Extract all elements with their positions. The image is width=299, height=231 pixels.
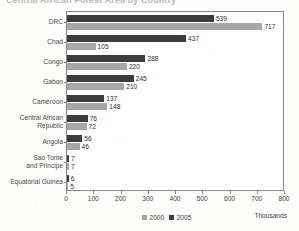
bar-2000 (67, 83, 124, 90)
bar-value-label: 245 (134, 75, 147, 82)
bar-2005 (67, 15, 214, 22)
y-axis-label: Central African Republic (0, 112, 63, 132)
chart-title: Central African Forest Area by Country (6, 0, 246, 6)
bar-value-label: 137 (104, 95, 117, 102)
bar-value-label: 7 (69, 163, 75, 170)
y-axis-label: Gabon (0, 72, 63, 92)
bar-value-label: 6 (69, 175, 75, 182)
x-axis-tick-label: 100 (88, 195, 99, 202)
y-axis-label: Angola (0, 132, 63, 152)
x-axis-tick (121, 191, 122, 194)
chart-row: Cameroon137148 (67, 92, 283, 112)
x-axis-tick (66, 191, 67, 194)
bar-value-label: 7 (69, 155, 75, 162)
x-axis-tick (230, 191, 231, 194)
x-axis-tick-label: 0 (64, 195, 68, 202)
x-axis-tick-label: 600 (224, 195, 235, 202)
bar-value-label: 288 (145, 55, 158, 62)
bar-value-label: 46 (80, 143, 89, 150)
legend-item-2005: 2005 (169, 214, 191, 221)
y-axis-label: DRC (0, 12, 63, 32)
y-axis-label: Chad (0, 32, 63, 52)
bar-value-label: 539 (214, 15, 227, 22)
bar-value-label: 72 (87, 123, 96, 130)
x-axis-tick (175, 191, 176, 194)
chart-row: Angola5646 (67, 132, 283, 152)
x-axis-tick-label: 800 (278, 195, 289, 202)
legend-label-2000: 2000 (150, 214, 165, 221)
bar-value-label: 76 (88, 115, 97, 122)
x-axis-tick (257, 191, 258, 194)
bar-2000 (67, 63, 127, 70)
x-axis-tick-label: 400 (169, 195, 180, 202)
plot-area: DRC539717Chad437105Congo288220Gabon24521… (66, 11, 284, 191)
bar-value-label: 220 (127, 63, 140, 70)
bar-2005 (67, 95, 104, 102)
x-axis-tick-label: 200 (115, 195, 126, 202)
bar-2000 (67, 123, 87, 130)
chart-figure: Central African Forest Area by Country D… (0, 0, 299, 231)
chart-row: Chad437105 (67, 32, 283, 52)
chart-row: Central African Republic7672 (67, 112, 283, 132)
chart-row: DRC539717 (67, 12, 283, 32)
chart-row: Gabon245210 (67, 72, 283, 92)
legend-label-2005: 2005 (177, 214, 192, 221)
bar-value-label: 105 (96, 43, 109, 50)
units-note: Thousands (254, 212, 287, 219)
y-axis-label: Congo (0, 52, 63, 72)
chart-row: Congo288220 (67, 52, 283, 72)
chart-legend: 2000 2005 (142, 212, 191, 222)
x-axis-tick (202, 191, 203, 194)
x-axis-tick (148, 191, 149, 194)
bar-2000 (67, 103, 107, 110)
chart-row: Sao Tome and Principe77 (67, 152, 283, 172)
bar-2005 (67, 75, 134, 82)
x-axis-tick (93, 191, 94, 194)
x-axis-tick (284, 191, 285, 194)
bar-2005 (67, 55, 145, 62)
bar-2000 (67, 143, 80, 150)
x-axis-labels: 0100200300400500600700800 (66, 195, 284, 205)
x-axis-tick-label: 500 (197, 195, 208, 202)
bar-value-label: 148 (107, 103, 120, 110)
y-axis-label: Equatorial Guinea (0, 172, 63, 192)
bar-2000 (67, 23, 262, 30)
bar-2005 (67, 135, 82, 142)
bar-value-label: 717 (262, 23, 275, 30)
bar-value-label: 437 (186, 35, 199, 42)
bar-value-label: 56 (82, 135, 91, 142)
legend-swatch-2000-icon (142, 215, 147, 220)
legend-item-2000: 2000 (142, 214, 164, 221)
bar-value-label: 210 (124, 83, 137, 90)
bar-2005 (67, 115, 88, 122)
y-axis-label: Sao Tome and Principe (0, 152, 63, 172)
chart-row: Equatorial Guinea65 (67, 172, 283, 192)
x-axis-tick-label: 700 (251, 195, 262, 202)
bar-2005 (67, 35, 186, 42)
x-axis-tick-label: 300 (142, 195, 153, 202)
bar-value-label: 5 (68, 183, 74, 190)
legend-swatch-2005-icon (169, 215, 174, 220)
bar-2000 (67, 43, 96, 50)
y-axis-label: Cameroon (0, 92, 63, 112)
